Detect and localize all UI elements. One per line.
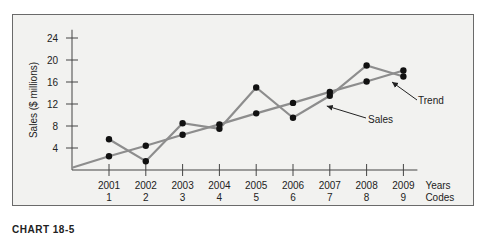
x-tick-year: 2005	[245, 180, 268, 191]
sales-point	[327, 93, 333, 99]
x-tick-code: 8	[364, 192, 370, 203]
trend-annotation: Trend	[418, 95, 444, 106]
x-tick-year: 2002	[135, 180, 158, 191]
trend-point	[143, 143, 149, 149]
x-tick-year: 2003	[171, 180, 194, 191]
trend-point	[179, 132, 185, 138]
sales-point	[179, 120, 185, 126]
y-tick-label: 20	[47, 55, 59, 66]
trend-point	[290, 100, 296, 106]
sales-arrow	[327, 106, 366, 118]
trend-arrow	[392, 82, 417, 100]
sales-point	[290, 115, 296, 121]
x-tick-code: 7	[327, 192, 333, 203]
x-tick-year: 2006	[282, 180, 305, 191]
y-tick-label: 16	[47, 77, 59, 88]
x-tick-code: 3	[180, 192, 186, 203]
x-tick-year: 2007	[319, 180, 342, 191]
x-tick-code: 2	[143, 192, 149, 203]
sales-point	[363, 62, 369, 68]
x-label-years: Years	[425, 180, 450, 191]
chart-caption: CHART 18-5	[12, 224, 75, 235]
x-tick-code: 4	[217, 192, 223, 203]
y-axis-label: Sales ($ millions)	[28, 62, 39, 138]
x-tick-code: 1	[106, 192, 112, 203]
x-label-codes: Codes	[425, 192, 454, 203]
sales-point	[253, 84, 259, 90]
sales-point	[106, 136, 112, 142]
line-chart: 4812162024Sales ($ millions)200112002220…	[0, 0, 487, 237]
trend-point	[363, 78, 369, 84]
x-tick-year: 2004	[208, 180, 231, 191]
sales-annotation: Sales	[368, 114, 393, 125]
y-tick-label: 12	[47, 99, 59, 110]
y-tick-label: 4	[52, 143, 58, 154]
sales-point	[143, 158, 149, 164]
x-tick-code: 6	[290, 192, 296, 203]
trend-point	[106, 153, 112, 159]
trend-point	[400, 67, 406, 73]
x-tick-year: 2001	[98, 180, 121, 191]
x-tick-code: 5	[253, 192, 259, 203]
trend-line	[72, 70, 403, 167]
x-tick-year: 2008	[355, 180, 378, 191]
x-tick-code: 9	[401, 192, 407, 203]
y-tick-label: 24	[47, 33, 59, 44]
sales-point	[216, 126, 222, 132]
sales-point	[400, 73, 406, 79]
y-tick-label: 8	[52, 121, 58, 132]
x-tick-year: 2009	[392, 180, 415, 191]
trend-point	[253, 110, 259, 116]
